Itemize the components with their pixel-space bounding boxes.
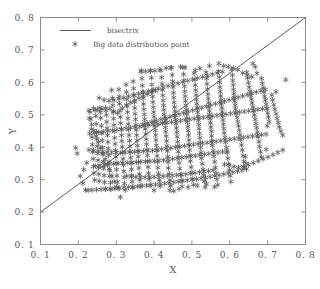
y-tick-label: 0. 5 bbox=[15, 110, 35, 120]
x-tick-label: 0. 1 bbox=[31, 250, 51, 260]
y-tick-label: 0. 7 bbox=[15, 45, 35, 55]
x-tick-label: 0. 7 bbox=[258, 250, 278, 260]
y-tick-label: 0. 1 bbox=[15, 240, 35, 250]
x-axis-title: X bbox=[170, 264, 177, 275]
x-tick-label: 0. 3 bbox=[106, 250, 126, 260]
x-tick-label: 0. 4 bbox=[144, 250, 164, 260]
y-tick-label: 0. 8 bbox=[15, 13, 35, 23]
y-tick-label: 0. 2 bbox=[15, 207, 35, 217]
scatter-plot-figure: 0. 10. 20. 30. 40. 50. 60. 70. 8 0. 10. … bbox=[0, 0, 320, 289]
y-tick-label: 0. 6 bbox=[15, 78, 35, 88]
x-tick-label: 0. 8 bbox=[296, 250, 316, 260]
plot-canvas: 0. 10. 20. 30. 40. 50. 60. 70. 8 0. 10. … bbox=[0, 0, 320, 289]
x-tick-label: 0. 5 bbox=[182, 250, 202, 260]
legend-label-bisectrix: bisectrix bbox=[107, 26, 139, 35]
y-tick-label: 0. 4 bbox=[15, 143, 35, 153]
x-tick-label: 0. 6 bbox=[220, 250, 240, 260]
y-tick-label: 0. 3 bbox=[15, 175, 35, 185]
legend-label-big-data-distribution-point: Big data distribution point bbox=[93, 40, 190, 49]
x-tick-label: 0. 2 bbox=[68, 250, 88, 260]
y-axis-title: Y bbox=[7, 127, 18, 135]
